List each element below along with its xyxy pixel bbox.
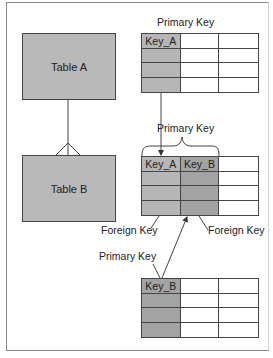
pointer-foreign-key-left (151, 216, 159, 228)
connector-lines (0, 0, 273, 358)
pointer-foreign-key-right (199, 216, 208, 230)
brace-composite-key (142, 137, 219, 156)
arrow-key-b (162, 217, 187, 278)
pointer-primary-key-bottom (153, 264, 160, 278)
relationship-one-to-many (56, 100, 80, 155)
